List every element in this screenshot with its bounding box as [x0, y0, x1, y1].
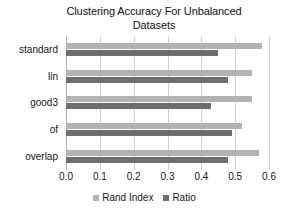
x-axis-tick-0.3: 0.3 — [161, 171, 175, 182]
chart-title-line-2: Datasets — [40, 19, 268, 33]
page-title: Clustering Accuracy For Unbalanced Datas… — [40, 5, 268, 32]
bar-ratio-lin — [66, 77, 228, 83]
chart-title-line-1: Clustering Accuracy For Unbalanced — [40, 5, 268, 19]
legend-label-rand-index: Rand Index — [102, 192, 153, 203]
x-axis-tick-0.6: 0.6 — [262, 171, 276, 182]
legend: Rand Index Ratio — [0, 192, 289, 203]
bar-rand-index-standard — [66, 43, 262, 49]
table-row — [66, 143, 269, 170]
legend-item-ratio: Ratio — [163, 192, 195, 203]
bar-chart: Clustering Accuracy For Unbalanced Datas… — [0, 0, 289, 217]
table-row — [66, 36, 269, 63]
bar-ratio-overlap — [66, 157, 228, 163]
plot-area — [66, 36, 269, 170]
x-axis-tick-0.0: 0.0 — [59, 171, 73, 182]
table-row — [66, 63, 269, 90]
table-row — [66, 116, 269, 143]
bar-rand-index-overlap — [66, 150, 259, 156]
bar-rand-index-good3 — [66, 96, 252, 102]
bar-rand-index-lin — [66, 70, 252, 76]
legend-swatch-icon-ratio — [163, 195, 169, 201]
y-axis-category-labels: standard lin good3 of overlap — [0, 36, 62, 170]
bar-ratio-of — [66, 130, 232, 136]
bar-ratio-good3 — [66, 103, 211, 109]
x-axis-tick-0.1: 0.1 — [93, 171, 107, 182]
bar-rand-index-of — [66, 123, 242, 129]
x-axis-tick-0.4: 0.4 — [194, 171, 208, 182]
legend-item-rand-index: Rand Index — [93, 192, 153, 203]
x-axis-tick-0.2: 0.2 — [127, 171, 141, 182]
y-axis-label-good3: good3 — [0, 90, 62, 117]
table-row — [66, 90, 269, 117]
bar-rows — [66, 36, 269, 170]
x-axis-tick-0.5: 0.5 — [228, 171, 242, 182]
y-axis-label-standard: standard — [0, 36, 62, 63]
y-axis-label-of: of — [0, 116, 62, 143]
bar-ratio-standard — [66, 50, 218, 56]
y-axis-label-lin: lin — [0, 63, 62, 90]
gridline-0.6 — [269, 36, 270, 170]
x-axis-tick-labels: 0.00.10.20.30.40.50.6 — [66, 171, 269, 185]
legend-swatch-icon-rand-index — [93, 195, 99, 201]
y-axis-label-overlap: overlap — [0, 143, 62, 170]
legend-label-ratio: Ratio — [172, 192, 195, 203]
